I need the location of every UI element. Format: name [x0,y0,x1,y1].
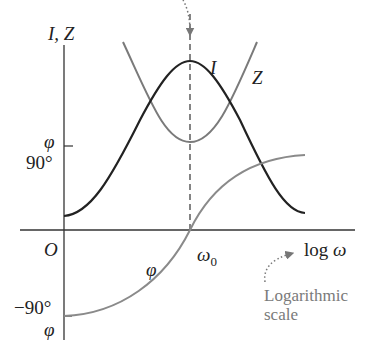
log-scale-pointer-arrow [265,254,290,282]
curve-i-label: I [210,58,216,77]
curve-z-label: Z [252,68,263,87]
tick-neg90-label: −90° [14,298,51,317]
annotation-scale: scale [264,306,298,323]
resonance-diagram: I, Z I Z φ 90° O ω0 log ω φ −90° φ Logar… [0,0,380,356]
tick-neg90-phi: φ [44,320,55,339]
omega0-label: ω0 [197,245,217,268]
curve-phi-label: φ [146,260,157,279]
tick-90-label: 90° [26,153,53,172]
origin-label: O [44,240,58,259]
tick-90-phi: φ [44,132,55,151]
top-pointer-arrow [183,0,190,32]
annotation-logarithmic: Logarithmic [264,287,348,304]
x-axis-label: log ω [304,240,346,259]
curve-i [64,61,305,216]
y-axis-label: I, Z [48,24,74,43]
